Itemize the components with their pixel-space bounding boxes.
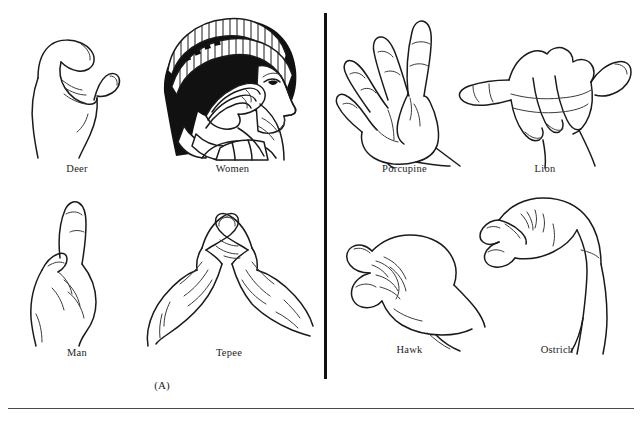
figure-canvas: Deer [0,0,641,422]
sign-label-man: Man [2,348,152,359]
sign-cell-man: Man [2,196,152,366]
sign-cell-women: Women [150,8,315,178]
sign-cell-ostrich: Ostrich [477,190,637,365]
hands-tepee-sign-icon [140,196,318,346]
hand-ostrich-sign-icon [477,190,637,355]
hand-man-sign-icon [2,196,152,346]
sign-cell-tepee: Tepee [140,196,318,366]
figure-bottom-rule [8,408,634,409]
sign-label-tepee: Tepee [140,348,318,359]
hand-lion-sign-icon [455,18,635,168]
panel-a: Deer [0,0,324,422]
head-women-sign-icon [150,8,315,166]
panel-caption-a: (A) [0,380,324,391]
sign-label-lion: Lion [455,164,635,175]
sign-cell-lion: Lion [455,18,635,178]
sign-label-hawk: Hawk [332,345,487,356]
sign-cell-hawk: Hawk [332,205,487,365]
panel-b: Porcupine [327,0,641,422]
sign-label-deer: Deer [2,164,152,175]
sign-label-ostrich: Ostrich [477,345,637,356]
hand-deer-sign-icon [2,18,152,168]
sign-label-women: Women [150,164,315,175]
sign-cell-deer: Deer [2,18,152,178]
hand-hawk-sign-icon [332,205,487,355]
